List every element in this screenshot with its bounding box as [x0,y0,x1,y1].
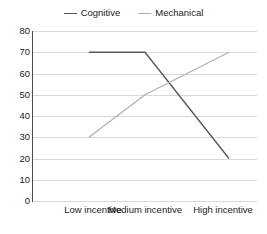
legend-item-mechanical[interactable]: Mechanical [138,8,203,18]
series-layer [33,31,257,201]
legend-label-mechanical: Mechanical [155,8,203,18]
legend-line-swatch-mechanical [138,13,151,14]
series-line-mechanical [89,52,229,137]
y-axis-tick-labels: 01020304050607080 [0,31,30,201]
y-tick-label: 50 [2,90,30,100]
y-tick-label: 10 [2,175,30,185]
x-tick-label: High incentive [193,204,253,216]
chart-legend: Cognitive Mechanical [0,4,267,22]
x-tick-label: Medium incentive [108,204,182,216]
y-tick-label: 0 [2,196,30,206]
y-tick-label: 40 [2,111,30,121]
y-tick-label: 30 [2,132,30,142]
y-tick-label: 80 [2,26,30,36]
y-tick-label: 70 [2,47,30,57]
series-line-cognitive [89,52,229,158]
legend-line-swatch-cognitive [64,13,77,14]
gridline [33,201,257,202]
x-axis-tick-labels: Low incentiveMedium incentiveHigh incent… [33,204,257,218]
line-chart: Cognitive Mechanical 01020304050607080 L… [0,0,267,234]
y-tick-label: 60 [2,69,30,79]
y-tick-label: 20 [2,154,30,164]
legend-label-cognitive: Cognitive [81,8,121,18]
legend-item-cognitive[interactable]: Cognitive [64,8,121,18]
plot-area [33,31,257,201]
